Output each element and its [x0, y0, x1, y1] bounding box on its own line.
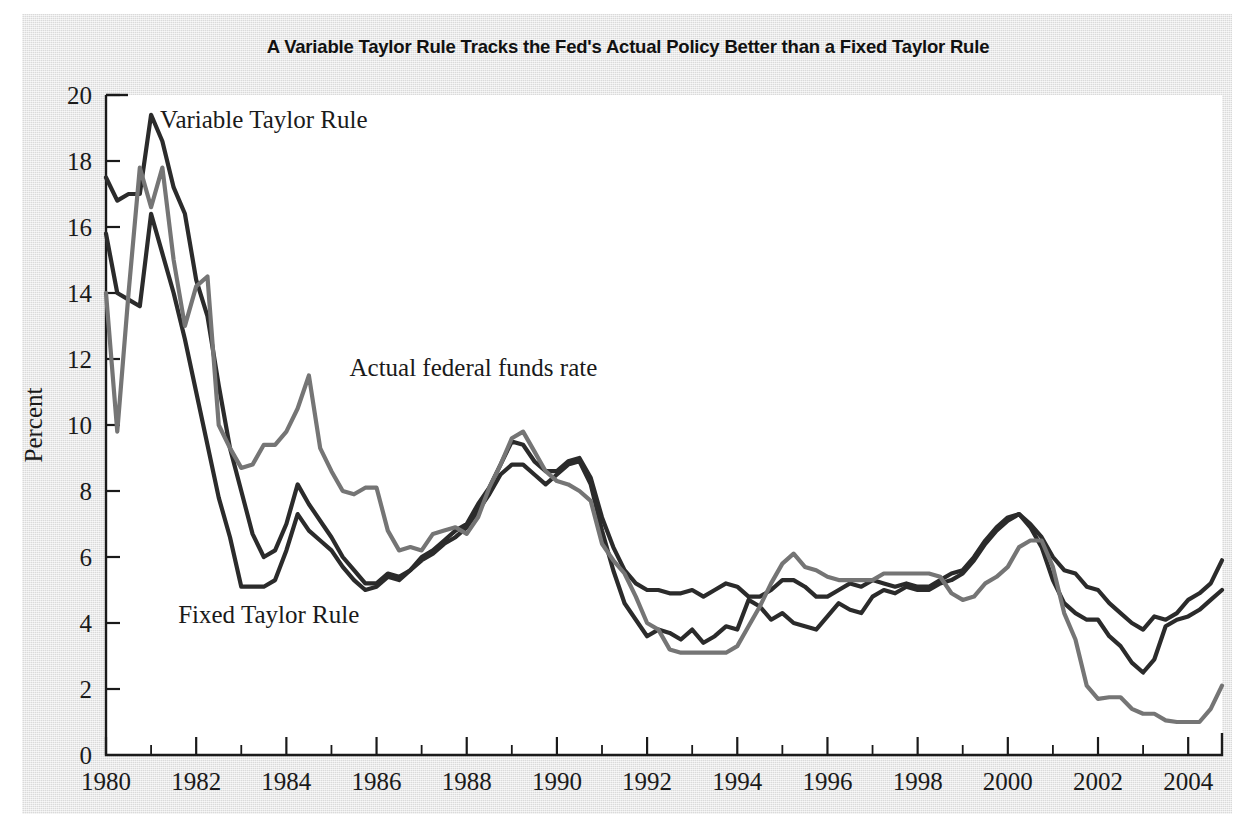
plot-background: [106, 95, 1222, 755]
y-tick-label: 12: [67, 346, 92, 373]
series-annotation-label: Fixed Taylor Rule: [178, 601, 359, 628]
y-tick-label: 20: [67, 82, 92, 109]
y-tick-label: 4: [80, 610, 93, 637]
y-axis-title: Percent: [20, 387, 47, 462]
line-chart-svg: 02468101214161820 1980198219841986198819…: [0, 0, 1256, 828]
series-annotation-label: Variable Taylor Rule: [160, 106, 367, 133]
x-tick-label: 1998: [893, 768, 943, 795]
x-tick-label: 1994: [712, 768, 763, 795]
x-tick-label: 1986: [352, 768, 402, 795]
x-tick-label: 1980: [81, 768, 131, 795]
y-tick-label: 14: [67, 280, 93, 307]
plot-wrapper: 02468101214161820 1980198219841986198819…: [0, 0, 1256, 828]
x-tick-label: 1988: [442, 768, 492, 795]
x-tick-label: 2000: [983, 768, 1033, 795]
x-tick-label: 2002: [1073, 768, 1123, 795]
x-tick-label: 1982: [171, 768, 221, 795]
y-tick-labels: 02468101214161820: [67, 82, 93, 769]
series-annotation-label: Actual federal funds rate: [349, 354, 597, 381]
y-tick-label: 8: [80, 478, 93, 505]
x-tick-labels: 1980198219841986198819901992199419961998…: [81, 768, 1214, 795]
y-axis-title-text: Percent: [20, 387, 47, 462]
y-tick-label: 0: [80, 742, 93, 769]
x-tick-label: 1996: [802, 768, 852, 795]
y-tick-label: 2: [80, 676, 93, 703]
x-tick-label: 1984: [261, 768, 312, 795]
y-tick-label: 6: [80, 544, 93, 571]
y-tick-label: 16: [67, 214, 92, 241]
y-tick-label: 18: [67, 148, 92, 175]
x-tick-label: 2004: [1163, 768, 1214, 795]
figure-container: A Variable Taylor Rule Tracks the Fed's …: [0, 0, 1256, 828]
y-tick-label: 10: [67, 412, 92, 439]
x-tick-label: 1992: [622, 768, 672, 795]
x-tick-label: 1990: [532, 768, 582, 795]
